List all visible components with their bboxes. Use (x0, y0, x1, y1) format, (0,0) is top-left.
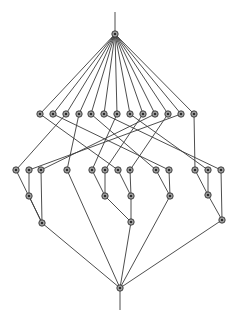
edge-a13-b11 (194, 114, 195, 170)
edge-top-a7 (115, 34, 117, 114)
edge-top-a1 (40, 34, 115, 114)
edges-layer (16, 34, 222, 288)
node-a7 (114, 111, 120, 117)
node-b11 (192, 167, 198, 173)
edge-b13-d3 (221, 170, 222, 220)
edge-top-a9 (115, 34, 143, 114)
node-a10 (152, 111, 158, 117)
node-b10 (166, 167, 172, 173)
hasse-diagram (0, 0, 239, 313)
node-b2 (26, 167, 32, 173)
node-top (112, 31, 118, 37)
node-a4 (76, 111, 82, 117)
edge-a4-b4 (67, 114, 79, 170)
edge-b9-c4 (156, 170, 170, 196)
edge-b3-d1 (41, 170, 42, 223)
node-b8 (127, 167, 133, 173)
node-a6 (101, 111, 107, 117)
edge-c2-d2 (105, 196, 131, 222)
edge-top-a10 (115, 34, 155, 114)
node-b5 (89, 167, 95, 173)
edge-b4-bottom (67, 170, 120, 288)
node-a2 (50, 111, 56, 117)
edge-d3-bottom (120, 220, 222, 288)
node-d1 (39, 220, 45, 226)
node-a5 (88, 111, 94, 117)
node-b7 (115, 167, 121, 173)
node-c5 (205, 192, 211, 198)
edge-b11-c5 (195, 170, 208, 195)
node-a9 (140, 111, 146, 117)
node-c3 (128, 193, 134, 199)
edge-b8-c3 (130, 170, 131, 196)
node-b6 (102, 167, 108, 173)
node-c1 (26, 193, 32, 199)
edge-top-a13 (115, 34, 194, 114)
node-b12 (205, 167, 211, 173)
node-a11 (165, 111, 171, 117)
edge-a8-b12 (130, 114, 208, 170)
edge-top-a5 (91, 34, 115, 114)
edge-c5-d3 (208, 195, 222, 220)
edge-b7-c3 (118, 170, 131, 196)
node-a1 (37, 111, 43, 117)
node-a12 (178, 111, 184, 117)
node-b1 (13, 167, 19, 173)
node-a3 (63, 111, 69, 117)
node-a13 (191, 111, 197, 117)
node-b3 (38, 167, 44, 173)
node-b4 (64, 167, 70, 173)
nodes-layer (13, 31, 225, 291)
node-bottom (117, 285, 123, 291)
edge-top-a3 (66, 34, 115, 114)
node-d2 (128, 219, 134, 225)
node-b13 (218, 167, 224, 173)
edge-c1-d1 (29, 196, 42, 223)
node-a8 (127, 111, 133, 117)
edge-b10-c4 (169, 170, 170, 196)
edge-top-a12 (115, 34, 181, 114)
node-c4 (167, 193, 173, 199)
edge-d1-bottom (42, 223, 120, 288)
node-c2 (102, 193, 108, 199)
edge-b5-c2 (92, 170, 105, 196)
node-b9 (153, 167, 159, 173)
node-d3 (219, 217, 225, 223)
